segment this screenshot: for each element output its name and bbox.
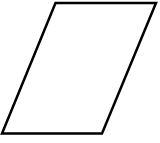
diagram-canvas: [0, 0, 160, 143]
parallelogram-figure: [0, 0, 160, 143]
parallelogram-shape: [2, 3, 156, 134]
